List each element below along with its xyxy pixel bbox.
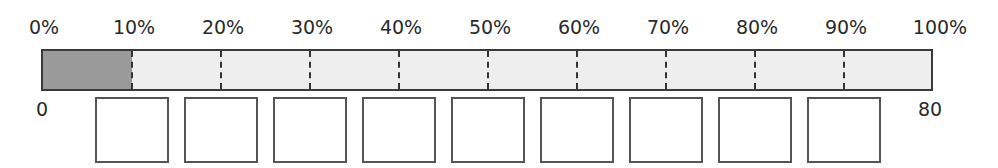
- answer-box[interactable]: [273, 97, 347, 163]
- divider-70: [665, 51, 667, 89]
- percent-label: 30%: [291, 16, 333, 38]
- answer-box[interactable]: [184, 97, 258, 163]
- percent-label: 90%: [825, 16, 867, 38]
- answer-box[interactable]: [629, 97, 703, 163]
- answer-box[interactable]: [540, 97, 614, 163]
- divider-90: [843, 51, 845, 89]
- percent-label: 10%: [113, 16, 155, 38]
- percent-label: 40%: [380, 16, 422, 38]
- percent-label: 100%: [913, 16, 967, 38]
- percent-label: 20%: [202, 16, 244, 38]
- percent-label: 80%: [736, 16, 778, 38]
- divider-40: [398, 51, 400, 89]
- percent-label: 50%: [469, 16, 511, 38]
- divider-10: [131, 51, 133, 89]
- filled-segment: [43, 51, 132, 89]
- percent-label: 60%: [558, 16, 600, 38]
- percent-label: 70%: [647, 16, 689, 38]
- divider-30: [309, 51, 311, 89]
- start-value-label: 0: [36, 98, 48, 120]
- divider-60: [576, 51, 578, 89]
- divider-80: [754, 51, 756, 89]
- answer-box[interactable]: [451, 97, 525, 163]
- divider-20: [220, 51, 222, 89]
- answer-box[interactable]: [807, 97, 881, 163]
- end-value-label: 80: [918, 98, 942, 120]
- percent-label: 0%: [29, 16, 59, 38]
- answer-box[interactable]: [718, 97, 792, 163]
- percent-bar: [41, 49, 933, 91]
- divider-50: [487, 51, 489, 89]
- answer-box[interactable]: [95, 97, 169, 163]
- answer-box[interactable]: [362, 97, 436, 163]
